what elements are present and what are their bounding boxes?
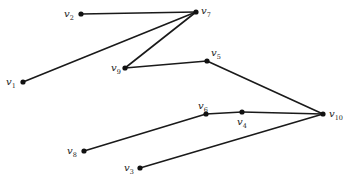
edge-v4-v10: [242, 112, 323, 114]
node-label-v6: v6: [198, 100, 208, 114]
node-v1: [20, 79, 25, 84]
labels-layer: v1v2v3v4v5v6v7v8v9v10: [6, 5, 343, 176]
edge-v2-v7: [81, 12, 196, 14]
node-label-v8: v8: [67, 145, 77, 159]
node-label-v7: v7: [201, 5, 211, 19]
node-v3: [137, 165, 142, 170]
edge-v5-v10: [207, 61, 323, 114]
edge-v8-v6: [84, 114, 206, 151]
edge-v9-v5: [125, 61, 207, 68]
node-label-v5: v5: [211, 47, 221, 61]
node-label-v1: v1: [6, 76, 16, 90]
node-label-v9: v9: [111, 62, 121, 76]
graph-diagram: v1v2v3v4v5v6v7v8v9v10: [0, 0, 349, 186]
node-v7: [193, 9, 198, 14]
edge-v6-v4: [206, 112, 242, 114]
node-label-v10: v10: [329, 108, 343, 122]
node-v9: [122, 65, 127, 70]
edge-v3-v10: [140, 114, 323, 168]
node-label-v4: v4: [237, 116, 247, 130]
node-v4: [239, 109, 244, 114]
node-v10: [320, 111, 325, 116]
node-v5: [204, 58, 209, 63]
node-v2: [78, 11, 83, 16]
node-v8: [81, 148, 86, 153]
node-label-v3: v3: [124, 162, 134, 176]
edge-v1-v7: [23, 12, 196, 82]
edge-v7-v9: [125, 12, 196, 68]
node-label-v2: v2: [64, 8, 74, 22]
